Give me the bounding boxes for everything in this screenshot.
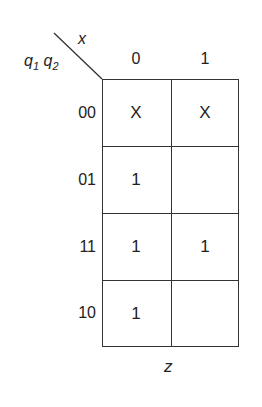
row-header-01: 01 [60, 171, 96, 189]
cell-11-1: 1 [171, 213, 239, 280]
output-label: z [164, 357, 173, 377]
row-header-10: 10 [60, 304, 96, 322]
q1-sub: 1 [33, 60, 39, 72]
cell-00-1: X [171, 79, 239, 146]
row-variable-label: q1 q2 [24, 52, 59, 72]
cell-11-0: 1 [102, 213, 170, 280]
cell-01-0: 1 [102, 146, 170, 213]
col-header-1: 1 [171, 50, 239, 68]
cell-10-0: 1 [102, 280, 170, 347]
column-variable-label: x [78, 30, 86, 48]
cell-00-0: X [102, 79, 170, 146]
q2-sub: 2 [52, 60, 58, 72]
cell-01-1 [171, 146, 239, 213]
row-header-11: 11 [60, 238, 96, 256]
row-header-00: 00 [60, 104, 96, 122]
q1-var: q [24, 52, 33, 69]
cell-10-1 [171, 280, 239, 347]
col-header-0: 0 [102, 50, 170, 68]
